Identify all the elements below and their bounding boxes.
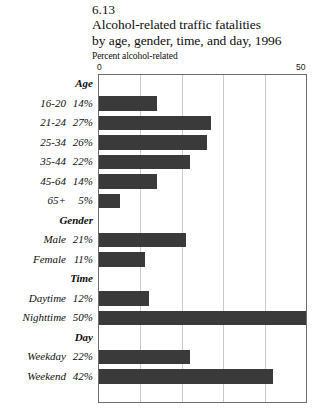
figure-header: 6.13 Alcohol-related traffic fatalities … (92, 2, 323, 62)
category-label: 35-44 (0, 152, 66, 172)
bar (99, 96, 157, 111)
bar (99, 135, 207, 150)
chart-row: 45-6414% (0, 172, 323, 192)
chart-row: Weekend42% (0, 367, 323, 387)
figure-title-line-2: by age, gender, time, and day, 1996 (92, 33, 323, 49)
x-axis-tick-max: 50 (296, 62, 305, 72)
group-label: Gender (0, 211, 93, 231)
bar (99, 350, 190, 365)
group-label: Time (0, 269, 93, 289)
bar (99, 174, 157, 189)
category-label: 16-20 (0, 94, 66, 114)
value-label: 12% (68, 289, 93, 309)
value-label: 11% (68, 250, 93, 270)
value-label: 42% (68, 367, 93, 387)
chart-row: Female11% (0, 250, 323, 270)
chart-row: 25-3426% (0, 133, 323, 153)
value-label: 14% (68, 94, 93, 114)
bar (99, 369, 273, 384)
category-label: Nighttime (0, 308, 66, 328)
value-label: 22% (68, 347, 93, 367)
chart-row: 21-2427% (0, 113, 323, 133)
value-label: 22% (68, 152, 93, 172)
category-label: 65+ (0, 191, 66, 211)
bar (99, 311, 306, 326)
axis-unit-label: Percent alcohol-related (92, 50, 323, 62)
category-label: Weekday (0, 347, 66, 367)
group-header-row: Time (0, 269, 323, 289)
chart-row: 65+5% (0, 191, 323, 211)
group-label: Age (0, 74, 93, 94)
chart-row: Daytime12% (0, 289, 323, 309)
category-label: Daytime (0, 289, 66, 309)
chart-row: 16-2014% (0, 94, 323, 114)
bar (99, 291, 149, 306)
chart-row: Male21% (0, 230, 323, 250)
bar (99, 233, 186, 248)
chart-row: Nighttime50% (0, 308, 323, 328)
value-label: 27% (68, 113, 93, 133)
value-label: 50% (68, 308, 93, 328)
chart-row: Weekday22% (0, 347, 323, 367)
value-label: 14% (68, 172, 93, 192)
figure-number: 6.13 (92, 2, 323, 17)
category-label: 25-34 (0, 133, 66, 153)
bar (99, 155, 190, 170)
figure-title-line-1: Alcohol-related traffic fatalities (92, 17, 323, 33)
value-label: 5% (68, 191, 93, 211)
category-label: Male (0, 230, 66, 250)
group-header-row: Age (0, 74, 323, 94)
category-label: Weekend (0, 367, 66, 387)
x-axis-tick-min: 0 (97, 62, 102, 72)
figure-container: 6.13 Alcohol-related traffic fatalities … (0, 0, 323, 412)
bar (99, 252, 145, 267)
group-header-row: Day (0, 328, 323, 348)
group-header-row: Gender (0, 211, 323, 231)
category-label: 45-64 (0, 172, 66, 192)
chart-row: 35-4422% (0, 152, 323, 172)
bar (99, 116, 211, 131)
value-label: 26% (68, 133, 93, 153)
category-label: 21-24 (0, 113, 66, 133)
bar (99, 194, 120, 209)
chart-rows: Age16-2014%21-2427%25-3426%35-4422%45-64… (0, 74, 323, 386)
group-label: Day (0, 328, 93, 348)
category-label: Female (0, 250, 66, 270)
value-label: 21% (68, 230, 93, 250)
